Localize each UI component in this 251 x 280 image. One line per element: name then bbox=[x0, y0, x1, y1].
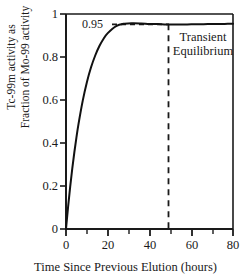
y-axis-title: Tc-99m activity as Fraction of Mo-99 act… bbox=[5, 0, 39, 167]
x-axis-major-ticks bbox=[66, 229, 233, 236]
chart-figure: 1 0.8 0.6 0.4 0.2 0 0 20 40 60 80 0.95 T… bbox=[0, 0, 251, 280]
x-tick-label-60: 60 bbox=[177, 239, 207, 252]
transient-equilibrium-line1: Transient bbox=[172, 30, 234, 44]
y-axis-title-line1: Tc-99m activity as bbox=[5, 0, 19, 167]
transient-equilibrium-label: Transient Equilibrium bbox=[172, 30, 234, 58]
x-tick-label-80: 80 bbox=[218, 239, 248, 252]
x-tick-label-20: 20 bbox=[93, 239, 123, 252]
x-tick-label-40: 40 bbox=[135, 239, 165, 252]
x-axis-title: Time Since Previous Elution (hours) bbox=[0, 261, 251, 274]
y-axis-title-line2: Fraction of Mo-99 activity bbox=[19, 0, 33, 167]
x-tick-label-0: 0 bbox=[51, 239, 81, 252]
y-tick-label-0: 0 bbox=[18, 223, 58, 236]
transient-equilibrium-line2: Equilibrium bbox=[172, 44, 234, 58]
equilibrium-value-label: 0.95 bbox=[82, 18, 103, 30]
y-tick-label-0.2: 0.2 bbox=[18, 180, 58, 193]
